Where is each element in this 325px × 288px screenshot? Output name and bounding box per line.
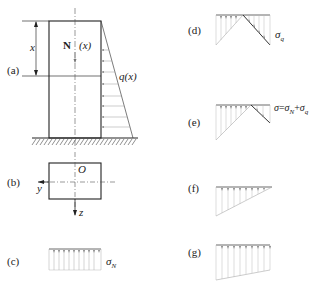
dimension-x-label: x (30, 42, 35, 53)
sigma-subscript: q (280, 35, 284, 43)
panel-label-c: (c) (7, 256, 19, 267)
panel-label-b: (b) (7, 177, 20, 188)
panel-label-g: (g) (188, 247, 201, 258)
figure-canvas (0, 0, 325, 288)
origin-label: O (78, 164, 86, 175)
combined-stress-diagram (216, 105, 270, 140)
panel-label-a: (a) (7, 65, 19, 76)
panel-label-e: (e) (188, 117, 200, 128)
load-q-label: q(x) (119, 71, 137, 82)
axial-force-symbol: N (63, 40, 71, 51)
bending-stress-diagram (216, 15, 270, 45)
sigma-q-label: σq (275, 29, 284, 43)
sigma-subscript: N (111, 262, 116, 270)
combined-stress-equation: σ=σN+σq (274, 103, 308, 116)
panel-label-f: (f) (188, 183, 199, 194)
cross-section-diagram (38, 152, 115, 216)
axial-force-arg: (x) (79, 40, 91, 51)
panel-label-d: (d) (188, 25, 201, 36)
triangular-stress-diagram (216, 187, 272, 216)
uniform-stress-diagram (49, 249, 101, 270)
trapezoidal-stress-diagram (216, 245, 271, 280)
sigma-subscript: q (305, 108, 309, 116)
ground-hatch (32, 139, 136, 145)
z-axis-label: z (79, 207, 83, 218)
sigma-n-label: σN (106, 256, 116, 270)
y-axis-label: y (37, 183, 42, 194)
